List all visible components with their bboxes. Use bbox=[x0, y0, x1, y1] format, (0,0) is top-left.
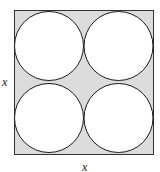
circle-top-left bbox=[15, 12, 84, 81]
label-side-left: x bbox=[1, 75, 8, 89]
label-side-bottom: x bbox=[81, 160, 88, 172]
diagram: x x bbox=[0, 0, 160, 172]
circle-top-right bbox=[84, 12, 153, 81]
circle-bottom-left bbox=[15, 84, 84, 153]
circle-bottom-right bbox=[84, 84, 153, 153]
